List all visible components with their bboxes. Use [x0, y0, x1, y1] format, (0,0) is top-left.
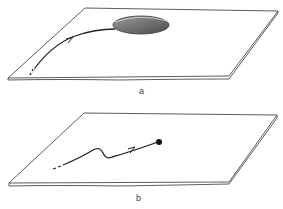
panel-b-label: b — [136, 193, 141, 203]
ellipse-target — [113, 16, 169, 34]
panel-b-sheet — [9, 113, 277, 186]
panel-a-label: a — [139, 86, 144, 96]
diagram-canvas — [0, 0, 283, 209]
